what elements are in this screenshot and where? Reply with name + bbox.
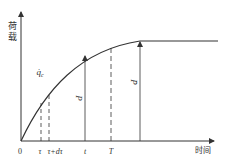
tau-dtau-label: τ+dτ <box>47 147 63 156</box>
t-label: t <box>84 147 87 156</box>
load-time-diagram: 荷 载 时间 0 τ τ+dτ t T q̇c P P̄ <box>0 0 225 166</box>
p-bar-label: P̄ <box>129 78 139 85</box>
y-axis-label-char-2: 载 <box>8 31 17 42</box>
p-label: P <box>74 94 84 101</box>
q-dot-label: q̇c <box>36 67 44 78</box>
load-curve <box>21 41 218 141</box>
tau-label: τ <box>39 147 43 156</box>
x-axis-label: 时间 <box>195 145 211 155</box>
y-axis-label-char-1: 荷 <box>8 21 17 31</box>
q-dot-sub: c <box>41 72 44 78</box>
T-label: T <box>109 147 114 156</box>
origin-label: 0 <box>18 147 22 156</box>
